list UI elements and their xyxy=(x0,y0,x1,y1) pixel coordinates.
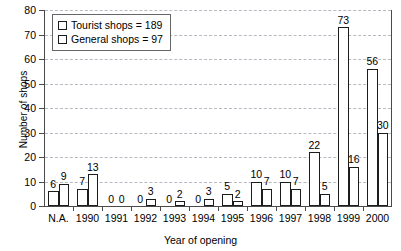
x-tick-mark xyxy=(276,207,277,211)
x-tick-mark xyxy=(363,207,364,211)
x-tick-mark xyxy=(218,207,219,211)
bar-tourist-shops-2000 xyxy=(367,69,378,206)
x-tick-mark xyxy=(131,207,132,211)
bar-group: 107 xyxy=(276,10,305,206)
bar-tourist-shops-1998 xyxy=(309,152,320,206)
bar-value-label: 22 xyxy=(299,140,329,151)
legend-item-general: General shops = 97 xyxy=(58,32,163,46)
y-tick-label: 50 xyxy=(2,79,36,90)
legend-label-general: General shops = 97 xyxy=(71,34,163,45)
x-tick-mark xyxy=(73,207,74,211)
bar-group: 03 xyxy=(189,10,218,206)
y-tick-label: 20 xyxy=(2,152,36,163)
bar-group: 7316 xyxy=(334,10,363,206)
bar-tourist-shops-N.A. xyxy=(48,191,59,206)
y-tick-label: 80 xyxy=(2,5,36,16)
x-tick-mark xyxy=(160,207,161,211)
bar-chart: Number of shops 01020304050607080 697130… xyxy=(0,0,401,251)
x-axis-title: Year of opening xyxy=(0,234,401,246)
bar-general-shops-1994 xyxy=(204,199,215,206)
y-tick-label: 30 xyxy=(2,128,36,139)
bar-general-shops-2000 xyxy=(378,133,389,207)
x-tick-label: 2000 xyxy=(355,213,401,224)
bar-value-label: 30 xyxy=(368,120,398,131)
bar-group: 225 xyxy=(305,10,334,206)
bar-general-shops-N.A. xyxy=(59,184,70,206)
bar-general-shops-1995 xyxy=(233,201,244,206)
bar-general-shops-1997 xyxy=(291,189,302,206)
y-tick-label: 60 xyxy=(2,54,36,65)
legend: Tourist shops = 189 General shops = 97 xyxy=(52,14,171,51)
bar-tourist-shops-1999 xyxy=(338,27,349,206)
bar-general-shops-1998 xyxy=(320,194,331,206)
y-tick-mark xyxy=(39,206,44,207)
x-tick-mark xyxy=(334,207,335,211)
y-tick-label: 0 xyxy=(2,201,36,212)
x-tick-mark xyxy=(247,207,248,211)
y-tick-label: 10 xyxy=(2,177,36,188)
legend-label-tourist: Tourist shops = 189 xyxy=(71,20,162,31)
x-tick-mark xyxy=(189,207,190,211)
legend-swatch-general-icon xyxy=(58,35,67,44)
x-tick-mark xyxy=(305,207,306,211)
bar-general-shops-1996 xyxy=(262,189,273,206)
y-tick-label: 70 xyxy=(2,30,36,41)
legend-item-tourist: Tourist shops = 189 xyxy=(58,18,163,32)
legend-swatch-tourist-icon xyxy=(58,21,67,30)
bar-tourist-shops-1990 xyxy=(77,189,88,206)
bar-value-label: 73 xyxy=(328,15,358,26)
y-tick-label: 40 xyxy=(2,103,36,114)
x-tick-mark xyxy=(102,207,103,211)
bar-value-label: 56 xyxy=(357,56,387,67)
bar-group: 5630 xyxy=(363,10,392,206)
bar-general-shops-1999 xyxy=(349,167,360,206)
